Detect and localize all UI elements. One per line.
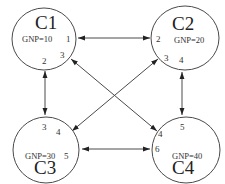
node-c2-port-3: 3 <box>164 53 169 63</box>
node-c3-port-5: 5 <box>64 151 69 161</box>
node-c4-gnp: GNP=40 <box>172 151 202 161</box>
node-c2-port-2: 2 <box>156 34 161 44</box>
node-c1: C1 GNP=10 1 2 3 <box>12 8 76 70</box>
node-c3-port-4: 4 <box>56 127 61 137</box>
node-c1-gnp: GNP=10 <box>22 34 52 44</box>
node-c2-gnp: GNP=20 <box>174 35 204 45</box>
node-c1-port-1: 1 <box>66 34 71 44</box>
node-c2: C2 GNP=20 2 3 4 <box>151 6 219 70</box>
node-c4-port-6: 6 <box>155 144 160 154</box>
node-c1-port-2: 2 <box>42 56 47 66</box>
node-c1-port-3: 3 <box>60 50 65 60</box>
node-c4: C4 GNP=40 4 5 6 <box>152 117 220 183</box>
network-diagram: C1 GNP=10 1 2 3 C2 GNP=20 2 3 4 C3 GNP=3… <box>0 0 225 184</box>
node-c3-gnp: GNP=30 <box>25 151 55 161</box>
node-c2-label: C2 <box>172 13 194 34</box>
node-c4-port-5: 5 <box>180 122 185 132</box>
node-c3: C3 GNP=30 3 4 5 <box>13 117 79 183</box>
node-c4-port-4: 4 <box>158 129 163 139</box>
edge-c1-c4 <box>71 59 157 131</box>
edge-c2-c3 <box>72 59 158 131</box>
node-c1-label: C1 <box>35 12 57 33</box>
node-c3-port-3: 3 <box>42 122 47 132</box>
node-c2-port-4: 4 <box>179 55 184 65</box>
